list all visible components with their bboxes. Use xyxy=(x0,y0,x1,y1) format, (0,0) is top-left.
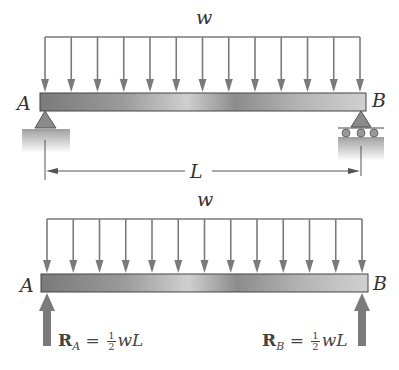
top-distributed-load xyxy=(41,37,364,92)
reaction-b-equation: RB = 12wL xyxy=(262,331,348,352)
bottom-label-b: B xyxy=(373,274,387,293)
span-label: L xyxy=(190,162,203,181)
reaction-a-subscript: A xyxy=(72,340,80,353)
frac-den: 2 xyxy=(107,342,115,352)
reaction-b-equals: = xyxy=(290,330,304,350)
reaction-a-rest: wL xyxy=(118,330,144,350)
top-label-b: B xyxy=(372,91,386,110)
reaction-a-symbol: R xyxy=(58,330,72,350)
reaction-b-subscript: B xyxy=(276,340,284,353)
reaction-a-equals: = xyxy=(86,330,100,350)
bottom-beam xyxy=(41,274,368,292)
bottom-distributed-load xyxy=(43,219,366,273)
reaction-a-equation: RA = 12wL xyxy=(58,331,143,352)
beam-diagram-canvas xyxy=(0,0,399,370)
bottom-load-label: w xyxy=(197,190,213,209)
top-beam xyxy=(40,93,366,111)
reaction-arrow-a-icon xyxy=(39,293,55,346)
bottom-label-a: A xyxy=(20,276,34,295)
frac-den: 2 xyxy=(311,342,319,352)
top-label-a: A xyxy=(17,94,31,113)
reaction-b-fraction: 12 xyxy=(311,331,319,352)
reaction-arrow-b-icon xyxy=(354,293,370,346)
reaction-a-fraction: 12 xyxy=(107,331,115,352)
pin-support-icon xyxy=(22,111,70,153)
reaction-b-symbol: R xyxy=(262,330,276,350)
reaction-b-rest: wL xyxy=(322,330,348,350)
top-load-label: w xyxy=(196,8,212,27)
span-dimension xyxy=(45,140,361,180)
